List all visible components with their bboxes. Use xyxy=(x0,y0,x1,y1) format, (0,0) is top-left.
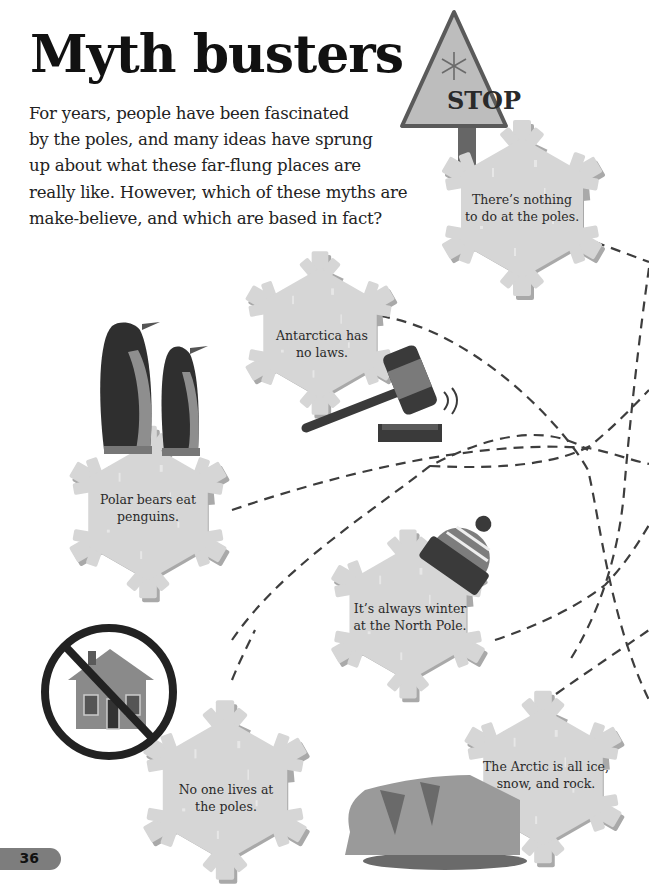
myth-line: no laws. xyxy=(276,344,368,361)
myth-line: There’s nothing xyxy=(465,191,579,208)
myth-no-one-lives: No one lives at the poles. xyxy=(179,781,274,815)
myth-line: the poles. xyxy=(179,798,274,815)
myth-nothing-to-do: There’s nothing to do at the poles. xyxy=(465,191,579,225)
myth-no-laws: Antarctica has no laws. xyxy=(276,327,368,361)
intro-line: by the poles, and many ideas have sprung xyxy=(29,127,419,153)
page-number: 36 xyxy=(20,850,39,866)
page-number-badge: 36 xyxy=(0,848,61,870)
intro-line: up about what these far-flung places are xyxy=(29,153,419,179)
intro-line: For years, people have been fascinated xyxy=(29,101,419,127)
myth-line: penguins. xyxy=(100,508,196,525)
myth-line: snow, and rock. xyxy=(483,775,609,792)
myth-line: It’s always winter xyxy=(353,600,466,617)
myth-busters-page: Myth busters For years, people have been… xyxy=(0,0,649,888)
no-house-icon xyxy=(45,628,173,756)
myth-line: at the North Pole. xyxy=(353,617,466,634)
myth-line: Antarctica has xyxy=(276,327,368,344)
stop-sign-label: STOP xyxy=(447,86,521,115)
intro-paragraph: For years, people have been fascinated b… xyxy=(29,101,419,232)
page-title: Myth busters xyxy=(30,28,403,80)
intro-line: really like. However, which of these myt… xyxy=(29,180,419,206)
intro-line: make-believe, and which are based in fac… xyxy=(29,206,419,232)
myth-line: The Arctic is all ice, xyxy=(483,758,609,775)
myth-line: Polar bears eat xyxy=(100,491,196,508)
myth-line: to do at the poles. xyxy=(465,208,579,225)
myth-polar-bears: Polar bears eat penguins. xyxy=(100,491,196,525)
myth-line: No one lives at xyxy=(179,781,274,798)
myth-arctic-ice: The Arctic is all ice, snow, and rock. xyxy=(483,758,609,792)
myth-always-winter: It’s always winter at the North Pole. xyxy=(353,600,466,634)
